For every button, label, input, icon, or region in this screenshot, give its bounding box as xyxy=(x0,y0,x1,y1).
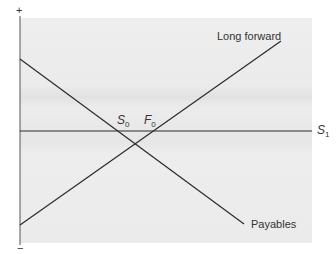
payables-label: Payables xyxy=(251,218,297,230)
minus-sign: − xyxy=(17,242,23,254)
s1-axis-label: S1 xyxy=(317,123,330,139)
long-forward-label: Long forward xyxy=(217,30,281,42)
payoff-diagram: + − Long forward Payables S0 F0 S1 xyxy=(0,0,336,254)
plus-sign: + xyxy=(16,4,22,16)
